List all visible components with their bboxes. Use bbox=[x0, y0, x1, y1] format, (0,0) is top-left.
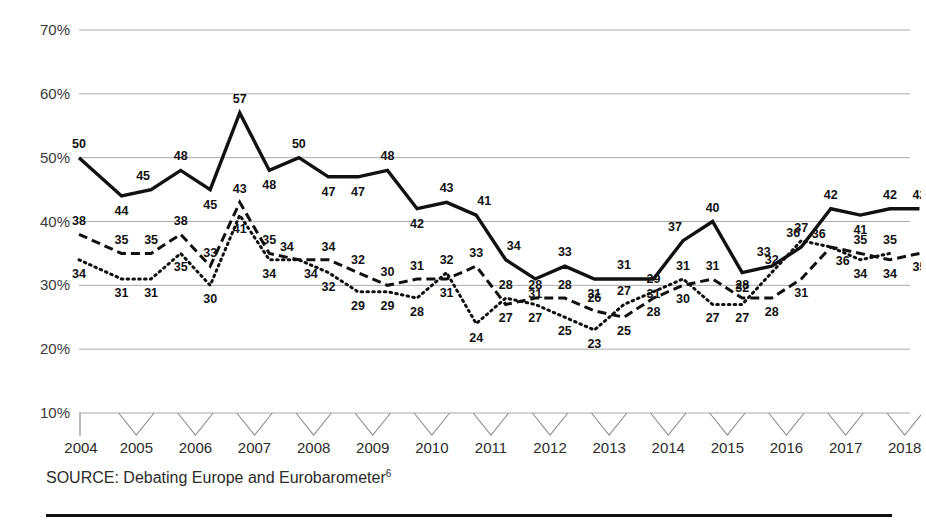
source-note: SOURCE: Debating Europe and Eurobaromete… bbox=[46, 468, 391, 487]
data-label-dashed: 35 bbox=[913, 260, 921, 274]
data-label-dotted: 29 bbox=[351, 299, 365, 313]
data-label-solid: 33 bbox=[558, 245, 572, 259]
data-label-dotted: 34 bbox=[853, 267, 867, 281]
data-label-dotted: 24 bbox=[469, 331, 483, 345]
data-label-dashed: 35 bbox=[144, 233, 158, 247]
data-label-dotted: 30 bbox=[203, 292, 217, 306]
x-axis-tick-2011: 2011 bbox=[468, 439, 514, 456]
data-label-dotted: 34 bbox=[304, 267, 318, 281]
x-axis-year-bracket bbox=[828, 413, 863, 435]
data-label-dotted: 34 bbox=[262, 267, 276, 281]
data-label-dashed: 31 bbox=[706, 259, 720, 273]
data-label-dotted: 41 bbox=[233, 222, 247, 236]
data-label-dashed: 36 bbox=[812, 227, 826, 241]
data-label-solid: 31 bbox=[617, 258, 631, 272]
source-footnote: 6 bbox=[386, 468, 392, 479]
data-label-solid: 45 bbox=[136, 169, 150, 183]
x-axis-tick-2012: 2012 bbox=[527, 439, 573, 456]
data-label-solid: 40 bbox=[706, 201, 720, 215]
data-label-solid: 42 bbox=[883, 188, 897, 202]
x-axis-year-bracket bbox=[651, 413, 686, 435]
x-axis-year-bracket bbox=[473, 413, 508, 435]
x-axis-tick-2005: 2005 bbox=[113, 439, 159, 456]
y-axis-tick-50: 50% bbox=[16, 149, 70, 166]
data-label-dashed: 35 bbox=[262, 233, 276, 247]
data-label-dashed: 35 bbox=[853, 233, 867, 247]
x-axis-tick-2018: 2018 bbox=[882, 439, 926, 456]
x-axis-year-bracket bbox=[178, 413, 213, 435]
data-label-dashed: 33 bbox=[469, 246, 483, 260]
data-label-solid: 48 bbox=[174, 149, 188, 163]
x-axis-year-bracket bbox=[237, 413, 272, 435]
x-axis-tick-2008: 2008 bbox=[291, 439, 337, 456]
x-axis-tick-2014: 2014 bbox=[645, 439, 691, 456]
data-label-solid: 47 bbox=[351, 185, 365, 199]
data-label-solid: 50 bbox=[72, 137, 86, 151]
data-label-dashed: 43 bbox=[233, 182, 247, 196]
data-label-solid: 50 bbox=[292, 137, 306, 151]
data-label-dotted: 27 bbox=[528, 311, 542, 325]
data-label-dotted: 28 bbox=[499, 278, 513, 292]
x-axis-year-bracket bbox=[119, 413, 154, 435]
data-label-dashed: 31 bbox=[410, 259, 424, 273]
x-axis-tick-2017: 2017 bbox=[823, 439, 869, 456]
data-label-dotted: 29 bbox=[647, 272, 661, 286]
x-axis-year-bracket bbox=[532, 413, 567, 435]
data-label-dashed: 33 bbox=[203, 246, 217, 260]
data-label-dotted: 31 bbox=[115, 286, 129, 300]
data-label-dashed: 35 bbox=[115, 233, 129, 247]
data-label-dashed: 31 bbox=[440, 286, 454, 300]
bottom-rule bbox=[46, 514, 892, 517]
data-label-dotted: 27 bbox=[706, 311, 720, 325]
y-axis-tick-30: 30% bbox=[16, 276, 70, 293]
data-label-solid: 42 bbox=[913, 188, 921, 202]
data-label-dashed: 31 bbox=[794, 286, 808, 300]
data-label-solid: 41 bbox=[477, 194, 491, 208]
data-label-dotted: 29 bbox=[381, 299, 395, 313]
y-axis-tick-70: 70% bbox=[16, 21, 70, 38]
x-axis-tick-2016: 2016 bbox=[763, 439, 809, 456]
data-label-solid: 48 bbox=[381, 149, 395, 163]
data-label-dotted: 32 bbox=[321, 280, 335, 294]
x-axis-tick-2004: 2004 bbox=[58, 439, 104, 456]
x-axis-tick-2015: 2015 bbox=[704, 439, 750, 456]
data-label-dotted: 28 bbox=[410, 305, 424, 319]
data-label-dashed: 30 bbox=[676, 292, 690, 306]
data-label-dotted: 34 bbox=[72, 267, 86, 281]
y-axis-tick-60: 60% bbox=[16, 85, 70, 102]
data-label-dashed: 27 bbox=[499, 311, 513, 325]
data-label-solid: 44 bbox=[115, 204, 129, 218]
data-label-dashed: 25 bbox=[617, 324, 631, 338]
x-axis-year-bracket bbox=[355, 413, 390, 435]
x-axis-year-bracket bbox=[769, 413, 804, 435]
data-label-dotted: 35 bbox=[883, 233, 897, 247]
y-axis-tick-20: 20% bbox=[16, 340, 70, 357]
data-label-solid: 57 bbox=[233, 92, 247, 106]
data-label-dashed: 32 bbox=[351, 253, 365, 267]
x-axis-tick-2007: 2007 bbox=[232, 439, 278, 456]
data-label-dotted: 35 bbox=[174, 260, 188, 274]
y-axis-tick-40: 40% bbox=[16, 213, 70, 230]
x-axis-year-bracket bbox=[591, 413, 626, 435]
data-label-dotted: 31 bbox=[144, 286, 158, 300]
x-axis-year-bracket bbox=[710, 413, 745, 435]
y-axis-tick-10: 10% bbox=[16, 404, 70, 421]
data-label-solid: 31 bbox=[647, 287, 661, 301]
x-axis-year-bracket bbox=[296, 413, 331, 435]
data-label-solid: 34 bbox=[507, 239, 521, 253]
source-text: SOURCE: Debating Europe and Eurobaromete… bbox=[46, 469, 386, 486]
data-label-dotted: 32 bbox=[765, 253, 779, 267]
data-label-dashed: 28 bbox=[765, 305, 779, 319]
data-label-dashed: 28 bbox=[558, 278, 572, 292]
data-label-dotted: 25 bbox=[558, 324, 572, 338]
data-label-dotted: 27 bbox=[617, 284, 631, 298]
data-label-solid: 48 bbox=[262, 178, 276, 192]
data-label-dashed: 34 bbox=[280, 240, 294, 254]
x-axis-tick-2010: 2010 bbox=[409, 439, 455, 456]
data-label-dashed: 28 bbox=[647, 305, 661, 319]
data-label-dashed: 38 bbox=[174, 214, 188, 228]
data-label-solid: 43 bbox=[440, 181, 454, 195]
data-label-dotted: 36 bbox=[836, 254, 850, 268]
data-label-dotted: 37 bbox=[794, 221, 808, 235]
